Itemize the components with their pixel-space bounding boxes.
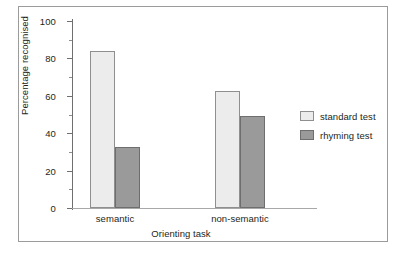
dark-swatch-icon xyxy=(300,130,314,140)
legend-item-standard-test: standard test xyxy=(300,108,384,124)
bar-semantic-rhyming-test xyxy=(115,147,140,208)
legend-label-rhyming-test: rhyming test xyxy=(320,130,372,141)
x-label-semantic: semantic xyxy=(96,213,134,224)
plot-area xyxy=(72,21,290,208)
y-label-40: 40 xyxy=(45,128,56,139)
bar-non-semantic-rhyming-test xyxy=(240,116,265,208)
chart-legend: standard test rhyming test xyxy=(300,108,384,146)
light-swatch-icon xyxy=(300,111,314,121)
y-label-100: 100 xyxy=(40,16,56,27)
legend-label-standard-test: standard test xyxy=(320,111,376,122)
figure-bar-chart: Percentage recognised 100 80 60 40 20 0 … xyxy=(0,0,397,256)
y-axis-ticks xyxy=(60,21,72,208)
y-label-0: 0 xyxy=(51,203,56,214)
y-label-60: 60 xyxy=(45,90,56,101)
y-axis-labels: 100 80 60 40 20 0 xyxy=(0,21,58,208)
y-label-20: 20 xyxy=(45,165,56,176)
bar-non-semantic-standard-test xyxy=(215,91,240,208)
legend-item-rhyming-test: rhyming test xyxy=(300,127,384,143)
bar-semantic-standard-test xyxy=(90,51,115,208)
figure-caption xyxy=(16,247,388,256)
x-axis-line xyxy=(72,208,317,209)
y-label-80: 80 xyxy=(45,53,56,64)
x-label-non-semantic: non-semantic xyxy=(211,213,269,224)
y-tick-0 xyxy=(67,208,72,209)
x-axis-title: Orienting task xyxy=(72,228,290,239)
